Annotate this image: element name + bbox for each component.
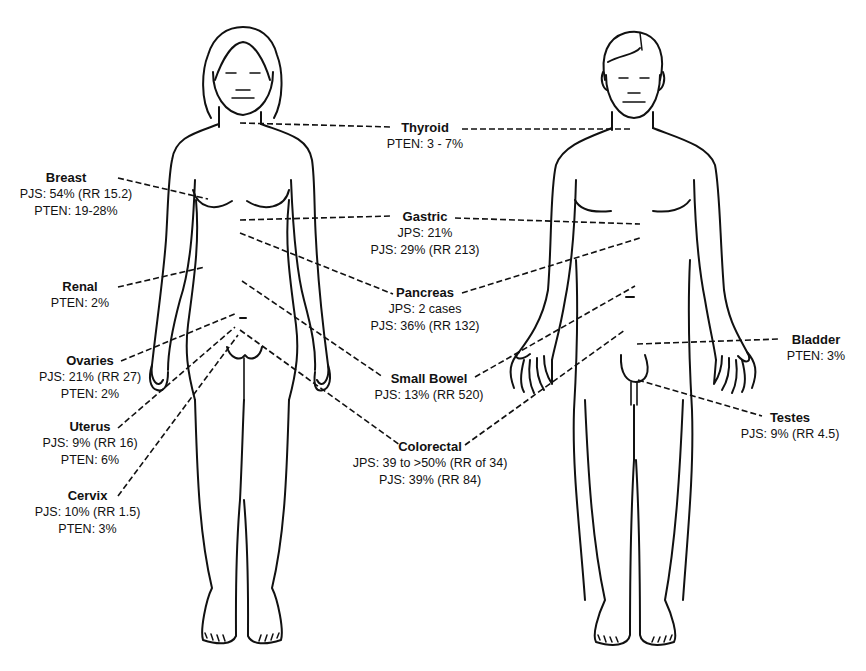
organ-label-colorectal: Colorectal JPS: 39 to >50% (RR of 34) PJ… [330,438,530,489]
organ-label-breast: Breast PJS: 54% (RR 15.2) PTEN: 19-28% [0,169,152,220]
organ-name: Thyroid [360,119,490,136]
organ-stat: PJS: 10% (RR 1.5) [30,504,145,521]
organ-stat: JPS: 39 to >50% (RR of 34) [330,455,530,472]
organ-stat: PTEN: 6% [35,452,145,469]
organ-label-thyroid: Thyroid PTEN: 3 - 7% [360,119,490,153]
organ-stat: PJS: 13% (RR 520) [364,387,494,404]
organ-stat: PJS: 36% (RR 132) [360,318,490,335]
diagram-canvas: Thyroid PTEN: 3 - 7% Breast PJS: 54% (RR… [0,0,866,671]
organ-stat: PJS: 54% (RR 15.2) [0,186,152,203]
organ-stat: JPS: 2 cases [360,301,490,318]
organ-stat: PJS: 9% (RR 4.5) [730,426,850,443]
organ-name: Testes [730,409,850,426]
organ-stat: PTEN: 3% [776,348,856,365]
organ-stat: PTEN: 19-28% [0,203,152,220]
organ-name: Renal [40,278,120,295]
organ-name: Cervix [30,487,145,504]
organ-name: Gastric [360,208,490,225]
organ-stat: PJS: 21% (RR 27) [30,369,150,386]
organ-name: Bladder [776,331,856,348]
organ-label-bladder: Bladder PTEN: 3% [776,331,856,365]
organ-label-ovaries: Ovaries PJS: 21% (RR 27) PTEN: 2% [30,352,150,403]
organ-label-uterus: Uterus PJS: 9% (RR 16) PTEN: 6% [35,418,145,469]
organ-label-small-bowel: Small Bowel PJS: 13% (RR 520) [364,370,494,404]
body-figures-svg [0,0,866,671]
organ-stat: JPS: 21% [360,225,490,242]
organ-stat: PJS: 39% (RR 84) [330,472,530,489]
organ-stat: PTEN: 3 - 7% [360,136,490,153]
organ-stat: PTEN: 3% [30,521,145,538]
organ-name: Breast [0,169,152,186]
organ-name: Pancreas [360,284,490,301]
female-body-figure [150,27,330,643]
organ-label-gastric: Gastric JPS: 21% PJS: 29% (RR 213) [360,208,490,259]
organ-label-pancreas: Pancreas JPS: 2 cases PJS: 36% (RR 132) [360,284,490,335]
organ-stat: PJS: 29% (RR 213) [360,242,490,259]
organ-label-cervix: Cervix PJS: 10% (RR 1.5) PTEN: 3% [30,487,145,538]
organ-name: Colorectal [330,438,530,455]
organ-stat: PTEN: 2% [40,295,120,312]
organ-name: Uterus [35,418,145,435]
male-body-figure [511,32,756,645]
organ-label-testes: Testes PJS: 9% (RR 4.5) [730,409,850,443]
organ-stat: PTEN: 2% [30,386,150,403]
organ-stat: PJS: 9% (RR 16) [35,435,145,452]
organ-name: Ovaries [30,352,150,369]
organ-name: Small Bowel [364,370,494,387]
organ-label-renal: Renal PTEN: 2% [40,278,120,312]
